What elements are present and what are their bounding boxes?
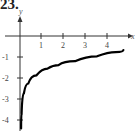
y-tick-neg3: -3 [2,95,9,104]
chart: x y 1 2 3 4 -1 -2 -3 -4 [0,0,138,131]
x-tick-1: 1 [39,41,43,50]
y-axis-label: y [18,7,23,16]
x-axis-label: x [130,32,135,41]
y-tick-neg4: -4 [2,116,9,125]
y-tick-neg1: -1 [2,53,9,62]
y-tick-neg2: -2 [2,74,9,83]
x-tick-4: 4 [105,41,109,50]
y-axis-arrow-icon [18,16,23,22]
x-tick-2: 2 [61,41,65,50]
x-tick-3: 3 [83,41,87,50]
function-curve [21,50,123,128]
